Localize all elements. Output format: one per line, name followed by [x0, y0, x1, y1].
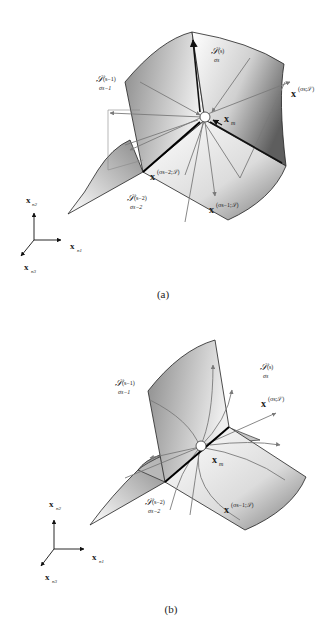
svg-text:x: x — [92, 552, 97, 562]
panel-b: 𝒮 (s) σs 𝒮 (s−1) σs−1 𝒮 (s−2) σs−2 x (σs… — [41, 340, 306, 616]
svg-text:x: x — [26, 195, 31, 205]
svg-text:n1: n1 — [77, 248, 82, 253]
svg-text:m: m — [231, 120, 236, 126]
svg-text:σs: σs — [263, 373, 269, 379]
svg-text:(σs;𝒮): (σs;𝒮) — [298, 86, 314, 93]
svg-text:(s): (s) — [218, 48, 224, 55]
svg-text:(s): (s) — [267, 364, 273, 371]
svg-text:(σs−2;𝒮): (σs−2;𝒮) — [157, 169, 180, 176]
svg-text:σs−1: σs−1 — [118, 389, 130, 395]
coordinate-axes-a — [21, 213, 61, 256]
svg-text:σs: σs — [214, 57, 220, 63]
svg-text:(σs;𝒮): (σs;𝒮) — [268, 396, 284, 403]
svg-text:x: x — [24, 262, 29, 272]
svg-text:σs−2: σs−2 — [130, 204, 142, 210]
svg-text:x: x — [291, 88, 296, 99]
svg-text:x: x — [224, 113, 229, 124]
svg-text:σs−1: σs−1 — [99, 85, 111, 91]
svg-text:n3: n3 — [31, 269, 37, 274]
svg-text:x: x — [261, 398, 266, 409]
caption-b: (b) — [165, 603, 178, 616]
equilibrium-point-b — [196, 441, 206, 451]
svg-text:n3: n3 — [52, 579, 58, 584]
svg-text:(s−2): (s−2) — [152, 499, 165, 506]
svg-text:(s−1): (s−1) — [122, 380, 135, 387]
svg-text:n2: n2 — [32, 202, 38, 207]
svg-text:σs−2: σs−2 — [148, 508, 160, 514]
svg-text:m: m — [219, 461, 224, 467]
svg-text:x: x — [224, 504, 229, 515]
svg-text:x: x — [150, 171, 155, 182]
svg-text:(s−1): (s−1) — [103, 76, 116, 83]
svg-text:x: x — [212, 454, 217, 465]
svg-text:n2: n2 — [56, 506, 62, 511]
svg-text:x: x — [49, 499, 54, 509]
caption-a: (a) — [157, 288, 170, 301]
svg-text:(σs−1;𝒮): (σs−1;𝒮) — [231, 502, 254, 509]
svg-text:(σs−1;𝒮): (σs−1;𝒮) — [216, 202, 239, 209]
svg-text:(s−2): (s−2) — [134, 195, 147, 202]
svg-text:x: x — [70, 241, 75, 251]
figure-canvas: 𝒮 (s) σs 𝒮 (s−1) σs−1 𝒮 (s−2) σs−2 x (σs… — [0, 0, 331, 624]
svg-text:x: x — [45, 572, 50, 582]
svg-text:n1: n1 — [99, 559, 104, 564]
panel-a: 𝒮 (s) σs 𝒮 (s−1) σs−1 𝒮 (s−2) σs−2 x (σs… — [21, 32, 314, 301]
svg-text:x: x — [209, 204, 214, 215]
coordinate-axes-b — [41, 520, 84, 566]
equilibrium-point — [200, 112, 210, 122]
